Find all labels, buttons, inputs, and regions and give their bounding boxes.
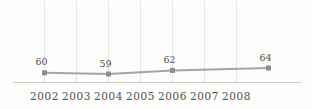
x-tick-label: 2002 <box>30 90 59 102</box>
x-tick-label: 2003 <box>62 90 91 102</box>
value-label: 64 <box>259 52 271 63</box>
data-point-marker <box>170 68 175 73</box>
x-tick-label: 2008 <box>222 90 251 102</box>
value-label: 60 <box>35 56 47 67</box>
data-line <box>45 68 269 74</box>
chart-screenshot: 605962642002200320042005200620072008 <box>0 0 312 109</box>
x-tick-label: 2004 <box>94 90 123 102</box>
x-tick-label: 2005 <box>126 90 155 102</box>
data-point-marker <box>42 70 47 75</box>
data-point-marker <box>106 72 111 77</box>
data-point-marker <box>266 66 271 71</box>
line-chart: 605962642002200320042005200620072008 <box>0 0 312 109</box>
x-tick-label: 2007 <box>190 90 219 102</box>
x-tick-label: 2006 <box>158 90 187 102</box>
value-label: 62 <box>163 54 175 65</box>
value-label: 59 <box>99 58 111 69</box>
